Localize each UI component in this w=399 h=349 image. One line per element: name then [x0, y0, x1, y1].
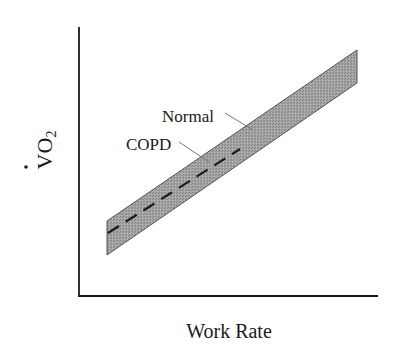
y-axis-label: VO2	[32, 131, 59, 170]
svg-text:VO2: VO2	[32, 131, 59, 170]
normal-leader-line	[225, 113, 253, 130]
y-label-dot	[24, 165, 28, 169]
x-axis-label: Work Rate	[186, 320, 272, 342]
y-label-o: O	[32, 138, 57, 154]
y-label-sub: 2	[44, 131, 59, 138]
vo2-work-rate-chart: Normal COPD Work Rate VO2	[0, 0, 399, 349]
copd-annotation-label: COPD	[126, 135, 171, 154]
normal-annotation-label: Normal	[162, 107, 214, 126]
copd-leader-line	[179, 142, 209, 162]
y-label-v: V	[32, 153, 57, 169]
